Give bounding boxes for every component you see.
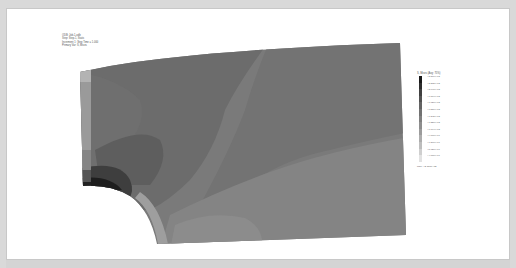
legend-swatch [419,135,422,142]
contour-legend: S, Mises (Avg: 75%) +2.376e+02+2.212e+02… [417,72,477,168]
legend-label: +9.000e+01 [427,134,440,137]
legend-swatch [419,142,422,149]
legend-swatch [419,122,422,129]
legend-swatch [419,96,422,103]
legend-label: +2.212e+02 [427,82,440,85]
legend-swatch [419,76,422,83]
legend-footer: Max: +2.376e+02 [417,165,477,168]
legend-swatch [419,89,422,96]
legend-swatch [419,102,422,109]
legend-swatch [419,116,422,123]
legend-label: +1.392e+02 [427,115,440,118]
legend-label: +1.884e+02 [427,95,440,98]
legend-swatch [419,149,422,156]
legend-swatch [419,83,422,90]
legend-label: +1.556e+02 [427,108,440,111]
legend-label: +1.228e+02 [427,121,440,124]
legend-label: +2.048e+02 [427,88,440,91]
legend-swatch [419,109,422,116]
legend-scale: +2.376e+02+2.212e+02+2.048e+02+1.884e+02… [419,76,477,162]
info-line: Primary Var: S, Mises [62,44,98,47]
legend-label: +1.720e+02 [427,101,440,104]
legend-label: +7.360e+01 [427,141,440,144]
legend-label: +4.080e+01 [427,154,440,157]
legend-swatch [419,129,422,136]
legend-label: +2.376e+02 [427,75,440,78]
legend-swatch [419,155,422,162]
legend-label: +5.720e+01 [427,148,440,151]
legend-label: +1.064e+02 [427,128,440,131]
info-block: ODB: Job-1.odb Step: Step-1, Static Incr… [62,34,98,47]
